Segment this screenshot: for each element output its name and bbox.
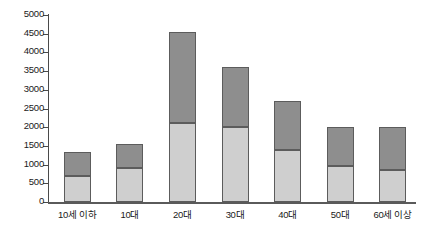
bar-stack [379, 127, 406, 202]
y-axis-tick-label: 500 [29, 176, 44, 187]
bar-segment-lower [169, 123, 196, 202]
bar-segment-upper [274, 101, 301, 150]
bar-segment-upper [327, 127, 354, 166]
x-axis-tick-label: 30대 [209, 207, 262, 221]
x-axis-line [48, 202, 416, 204]
bar-stack [222, 67, 249, 202]
bar-segment-lower [64, 176, 91, 202]
y-axis-tick-label: 1000 [24, 158, 44, 169]
y-axis-tick-label: 4000 [24, 45, 44, 56]
y-axis-tick-label: 5000 [24, 8, 44, 19]
bar-segment-lower [327, 166, 354, 202]
plot-area: 0500100015002000250030003500400045005000… [48, 14, 416, 203]
y-axis-tick-label: 2000 [24, 120, 44, 131]
bar-stack [169, 32, 196, 202]
bar-stack [327, 127, 354, 202]
x-axis-tick-label: 60세 이상 [366, 207, 419, 221]
y-axis-tick-label: 3000 [24, 83, 44, 94]
bar-segment-upper [222, 67, 249, 127]
x-axis-tick-label: 20대 [156, 207, 209, 221]
bar-stack [116, 144, 143, 202]
bar-stack [274, 101, 301, 202]
bar-segment-lower [116, 168, 143, 202]
bar-segment-upper [116, 144, 143, 168]
bar-segment-lower [222, 127, 249, 202]
y-axis-tick-label: 4500 [24, 27, 44, 38]
x-axis-tick-label: 10세 이하 [51, 207, 104, 221]
bar-segment-upper [169, 32, 196, 124]
bar-segment-lower [379, 170, 406, 202]
x-axis-tick-label: 50대 [314, 207, 367, 221]
y-axis-tick-label: 2500 [24, 102, 44, 113]
y-axis-tick-label: 1500 [24, 139, 44, 150]
y-axis-line [48, 14, 49, 203]
y-axis-tick-label: 3500 [24, 64, 44, 75]
bar-segment-upper [64, 152, 91, 176]
bar-segment-upper [379, 127, 406, 170]
x-axis-tick-label: 10대 [104, 207, 157, 221]
x-axis-tick-label: 40대 [261, 207, 314, 221]
bar-stack [64, 152, 91, 202]
bar-segment-lower [274, 150, 301, 202]
y-axis-tick-label: 0 [39, 195, 44, 206]
bar-chart: 0500100015002000250030003500400045005000… [0, 0, 431, 237]
